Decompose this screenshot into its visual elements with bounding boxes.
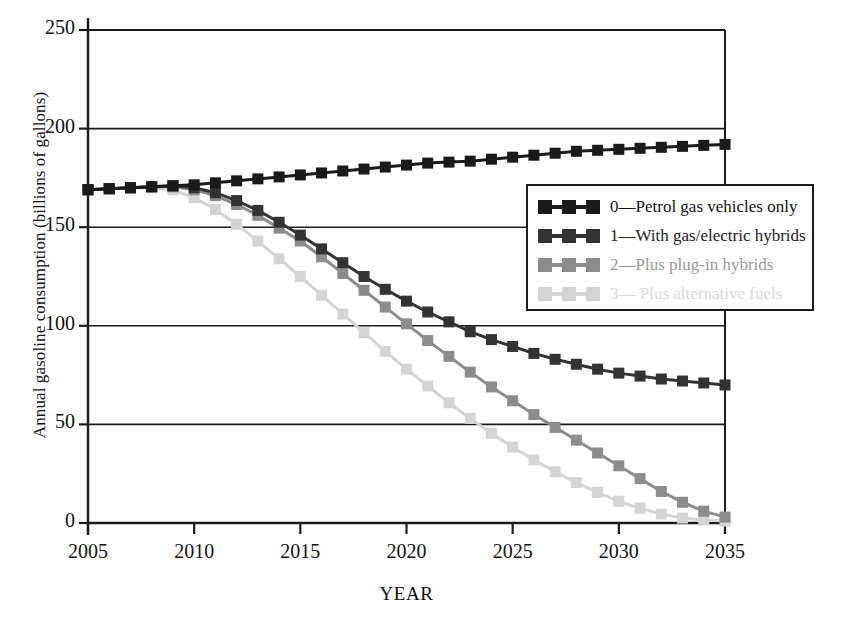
chart-canvas — [0, 0, 865, 625]
x-axis-title: YEAR — [88, 583, 725, 605]
legend-item: 1—With gas/electric hybrids — [538, 221, 812, 250]
x-tick-label: 2005 — [48, 540, 128, 563]
legend-label-series-0: 0—Petrol gas vehicles only — [610, 197, 797, 217]
x-tick-label: 2030 — [579, 540, 659, 563]
x-tick-label: 2015 — [260, 540, 340, 563]
y-tick-label: 50 — [15, 410, 75, 433]
legend-swatch-series-0 — [538, 196, 600, 218]
legend-label-series-2: 2—Plus plug-in hybrids — [610, 255, 773, 275]
legend-item: 0—Petrol gas vehicles only — [538, 192, 812, 221]
legend-item: 3— Plus alternative fuels — [538, 279, 812, 308]
y-tick-label: 200 — [15, 115, 75, 138]
legend-label-series-3: 3— Plus alternative fuels — [610, 284, 782, 304]
legend-label-series-1: 1—With gas/electric hybrids — [610, 226, 806, 246]
x-tick-label: 2020 — [367, 540, 447, 563]
y-tick-label: 250 — [15, 16, 75, 39]
legend-swatch-series-1 — [538, 225, 600, 247]
y-tick-label: 100 — [15, 312, 75, 335]
x-tick-label: 2035 — [685, 540, 765, 563]
legend-swatch-series-2 — [538, 254, 600, 276]
legend-item: 2—Plus plug-in hybrids — [538, 250, 812, 279]
y-tick-label: 150 — [15, 213, 75, 236]
x-tick-label: 2010 — [154, 540, 234, 563]
chart-legend: 0—Petrol gas vehicles only 1—With gas/el… — [526, 184, 814, 311]
legend-swatch-series-3 — [538, 283, 600, 305]
chart-figure: Annual gasoline consumption (billions of… — [0, 0, 865, 625]
x-tick-label: 2025 — [473, 540, 553, 563]
y-tick-label: 0 — [15, 509, 75, 532]
